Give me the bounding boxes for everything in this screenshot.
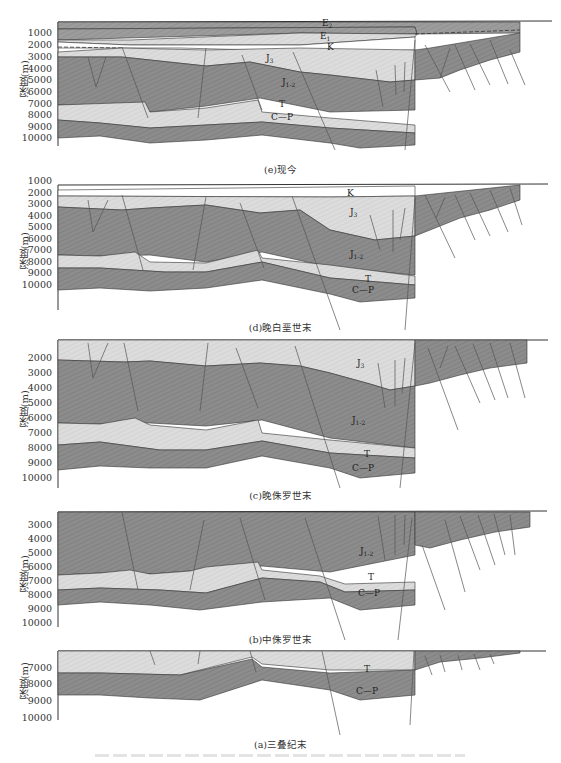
- figure-caption-blurred: [95, 754, 465, 757]
- tick: 6000: [6, 233, 52, 244]
- cross-section-late-jurassic: J3 J1-2 T C—P: [0, 338, 561, 498]
- label-K: K: [347, 188, 354, 198]
- panel-late-jurassic: 深度(m) 2000 3000 4000 5000 6000 7000 8000…: [0, 338, 561, 498]
- panel-caption: (b)中侏罗世末: [0, 632, 561, 646]
- panel-caption: (a)三叠纪末: [0, 737, 561, 751]
- panel-late-cretaceous: 深度(m) 1000 2000 3000 4000 5000 6000 7000…: [0, 180, 561, 330]
- tick: 2000: [6, 187, 52, 198]
- label-T: T: [365, 274, 371, 284]
- label-T: T: [364, 664, 370, 674]
- tick: 9000: [6, 267, 52, 278]
- panel-caption: (c)晚侏罗世末: [0, 488, 561, 502]
- tick: 1000: [6, 175, 52, 186]
- label-CP: C—P: [356, 686, 378, 696]
- panel-end-triassic: 深度(m) 7000 8000 9000 10000 T C—P (a)三叠纪末: [0, 650, 561, 750]
- label-T: T: [368, 572, 374, 582]
- panel-middle-jurassic: 深度(m) 3000 4000 5000 6000 7000 8000 9000…: [0, 510, 561, 640]
- tick: 10000: [6, 279, 52, 290]
- tick: 4000: [6, 210, 52, 221]
- label-CP: C—P: [352, 463, 374, 473]
- cross-section-late-cretaceous: K J3 J1-2 T C—P: [0, 0, 561, 150]
- tick: 3000: [6, 198, 52, 209]
- tick: 8000: [6, 256, 52, 267]
- label-CP: C—P: [358, 588, 380, 598]
- tick: 7000: [6, 244, 52, 255]
- label-T: T: [364, 449, 370, 459]
- panel-caption: (e)现今: [0, 162, 561, 176]
- cross-section-end-triassic: T C—P: [0, 650, 561, 750]
- cross-section-middle-jurassic: J1-2 T C—P: [0, 510, 561, 640]
- label-CP: C—P: [352, 285, 374, 295]
- panel-caption: (d)晚白垩世末: [0, 320, 561, 334]
- tick: 5000: [6, 221, 52, 232]
